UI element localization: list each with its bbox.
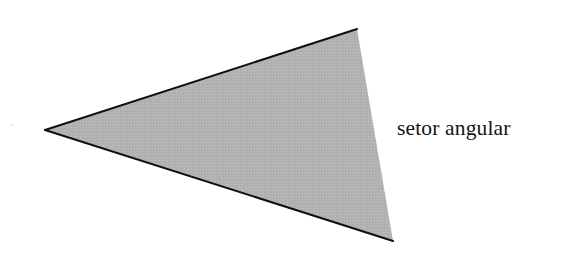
scan-speck — [11, 124, 14, 126]
figure-canvas: setor angular — [0, 0, 569, 264]
sector-label: setor angular — [397, 118, 511, 140]
angular-sector-fill — [45, 29, 393, 241]
